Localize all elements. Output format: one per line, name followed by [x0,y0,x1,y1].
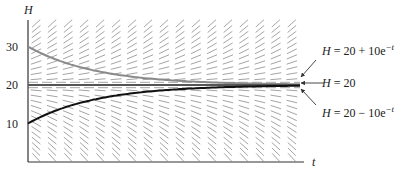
y-axis-label: H [23,3,34,17]
equilibrium-label: H = 20 [321,76,355,90]
y-tick-10: 10 [6,117,18,131]
upper-curve-label: H = 20 + 10e−t [321,42,395,58]
y-tick-30: 30 [6,40,18,54]
x-axis-label: t [312,155,316,169]
y-tick-20: 20 [6,78,18,92]
lower-annotation-arrow [301,89,316,105]
upper-solution-curve [28,47,300,85]
lower-curve-label: H = 20 − 10e−t [321,104,395,120]
upper-annotation-arrow [301,60,316,77]
slope-field-chart: H t 30 20 10 H = 20 + 10e−t H = 20 H = 2… [0,0,404,170]
